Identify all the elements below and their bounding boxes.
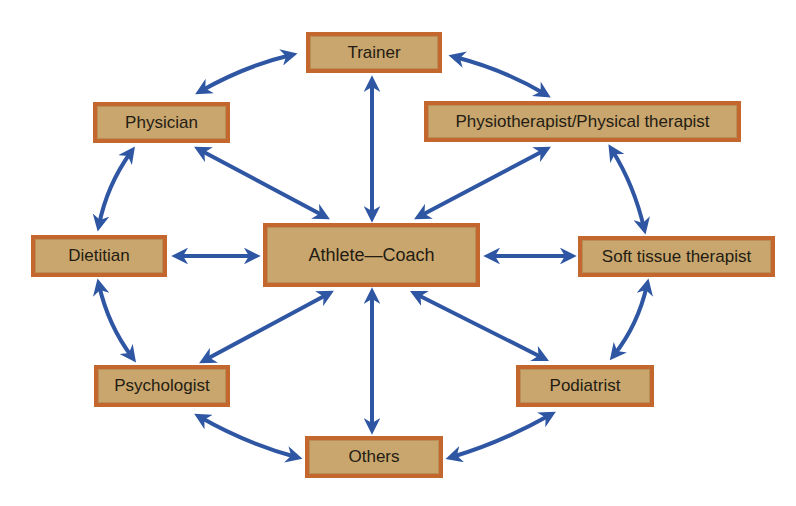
node-trainer: Trainer: [306, 32, 442, 73]
node-physician: Physician: [93, 102, 230, 143]
node-podiatrist: Podiatrist: [516, 365, 654, 407]
arrow-psychologist-others: [200, 417, 296, 457]
arrow-dietitian-psychologist: [99, 285, 132, 357]
arrow-center-podiatrist: [416, 294, 543, 358]
arrow-center-psychologist: [205, 294, 328, 360]
node-psychologist: Psychologist: [94, 365, 230, 407]
node-others: Others: [305, 436, 443, 478]
arrow-center-physio: [420, 150, 545, 216]
arrow-center-physician: [200, 150, 324, 216]
node-athlete-coach: Athlete—Coach: [263, 223, 480, 287]
arrow-podiatrist-others: [452, 415, 550, 457]
arrow-physician-dietitian: [99, 152, 131, 225]
arrow-physio-softtissue: [612, 150, 644, 228]
arrow-softtissue-podiatrist: [614, 285, 647, 355]
arrow-physician-trainer: [201, 55, 291, 91]
node-physiotherapist: Physiotherapist/Physical therapist: [424, 101, 741, 142]
node-dietitian: Dietitian: [31, 235, 167, 277]
arrow-trainer-physio: [455, 57, 545, 94]
node-soft-tissue-therapist: Soft tissue therapist: [578, 236, 775, 277]
care-team-diagram: Trainer Physician Physiotherapist/Physic…: [0, 0, 796, 506]
